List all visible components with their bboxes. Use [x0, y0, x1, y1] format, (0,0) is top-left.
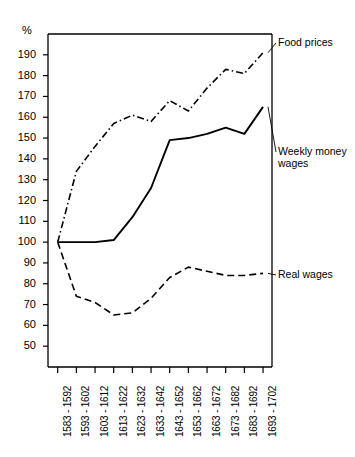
x-axis-tick-label: 1613 - 1622: [118, 386, 129, 437]
x-axis-tick-label: 1583 - 1592: [62, 386, 73, 437]
chart-series-group: [58, 53, 263, 315]
y-axis-tick-label: 50: [0, 339, 36, 351]
y-axis-tick-label: 110: [0, 214, 36, 226]
x-axis-tick-label: 1683 - 1692: [248, 386, 259, 437]
series-label-weekly-money-wages: Weekly money wages: [278, 145, 347, 169]
x-axis-tick-label: 1633 - 1642: [155, 386, 166, 437]
y-axis-tick-label: 160: [0, 110, 36, 122]
y-axis-tick-label: 90: [0, 256, 36, 268]
series-line-weekly-money-wages: [58, 107, 263, 242]
chart-axes: [48, 34, 272, 367]
y-axis-tick-label: 80: [0, 277, 36, 289]
x-axis-tick-label: 1623 - 1632: [136, 386, 147, 437]
y-axis-tick-label: 130: [0, 173, 36, 185]
x-axis-tick-label: 1663 - 1672: [211, 386, 222, 437]
x-axis-tick-marks: [58, 367, 263, 373]
x-axis-tick-label: 1593 - 1602: [80, 386, 91, 437]
series-label-real-wages: Real wages: [278, 268, 333, 280]
x-axis-tick-label: 1643 - 1652: [174, 386, 185, 437]
y-axis-tick-label: 150: [0, 131, 36, 143]
y-axis-tick-label: 120: [0, 194, 36, 206]
series-line-real-wages: [58, 242, 263, 315]
y-axis-tick-label: 140: [0, 152, 36, 164]
chart-container: % 19018017016015014013012011010090807060…: [0, 0, 355, 457]
x-axis-tick-label: 1693 - 1702: [267, 386, 278, 437]
y-axis-tick-label: 170: [0, 89, 36, 101]
x-axis-tick-label: 1653 - 1662: [192, 386, 203, 437]
series-label-food-prices: Food prices: [278, 36, 333, 48]
x-axis-tick-label: 1603 - 1612: [99, 386, 110, 437]
y-axis-tick-marks: [43, 55, 48, 346]
x-axis-tick-label: 1673 - 1682: [230, 386, 241, 437]
y-axis-tick-label: 70: [0, 298, 36, 310]
y-axis-tick-label: 190: [0, 48, 36, 60]
y-axis-tick-label: 100: [0, 235, 36, 247]
y-axis-tick-label: 60: [0, 318, 36, 330]
series-line-food-prices: [58, 53, 263, 242]
y-axis-tick-label: 180: [0, 69, 36, 81]
